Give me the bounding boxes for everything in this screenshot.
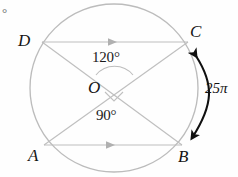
vertex-label-A: A (28, 147, 38, 164)
cropped-degree-artifact: ° (2, 6, 7, 19)
angle-label-90: 90° (96, 108, 116, 123)
arc-length-arrow-CB (192, 56, 209, 138)
angle-label-120: 120° (92, 50, 120, 65)
center-label-O: O (88, 79, 100, 96)
arc-length-label: 25π (205, 81, 228, 96)
main-circle (30, 4, 198, 172)
angle-arc-120 (96, 66, 133, 75)
vertex-label-C: C (190, 23, 201, 40)
chord-AB-parallel-marker (106, 141, 115, 149)
geometry-figure: ° D C A B O 120° 90° 25π (0, 0, 238, 177)
vertex-label-D: D (18, 32, 30, 49)
chord-DC-parallel-marker (108, 38, 117, 46)
vertex-label-B: B (178, 148, 188, 165)
